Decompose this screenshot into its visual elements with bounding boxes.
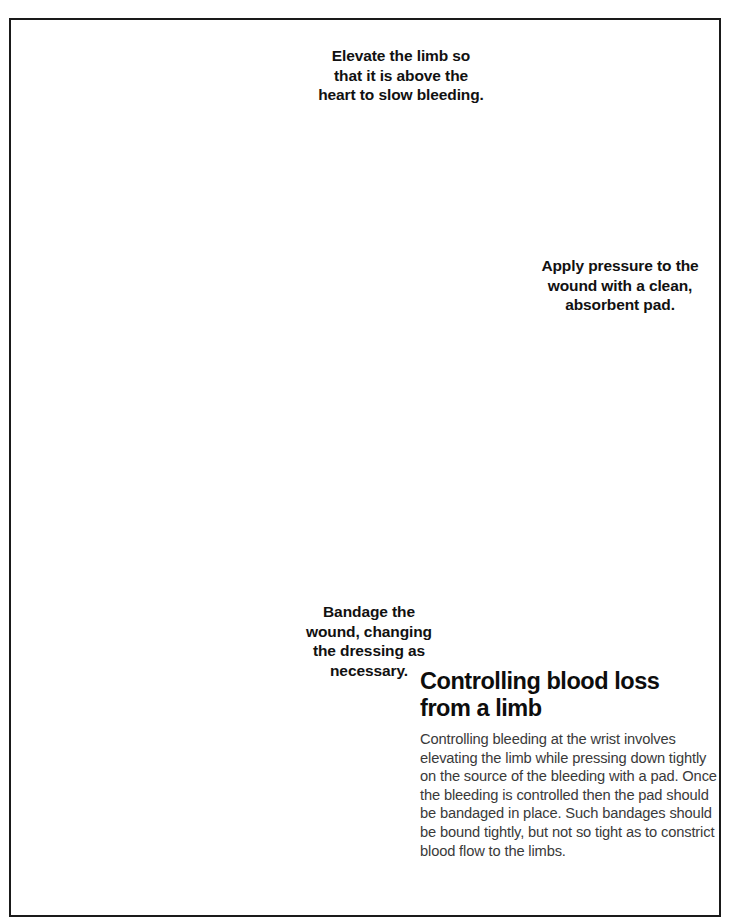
illustration-page: Elevate the limb so that it is above the… [0, 0, 740, 923]
article-body: Controlling bleeding at the wrist involv… [420, 730, 720, 860]
caption-elevate-limb: Elevate the limb so that it is above the… [288, 46, 514, 105]
caption-apply-pressure: Apply pressure to the wound with a clean… [516, 256, 724, 315]
article-text-block: Controlling blood loss from a limb Contr… [420, 668, 720, 860]
page-title: Controlling blood loss from a limb [420, 668, 720, 721]
